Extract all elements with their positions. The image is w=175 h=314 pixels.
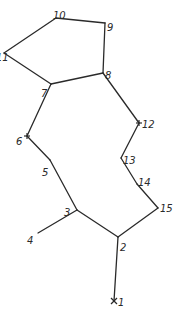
atom-label-8: 8 (105, 70, 111, 81)
bond-3-5 (50, 160, 77, 210)
atom-label-4: 4 (27, 235, 33, 246)
atom-label-2: 2 (120, 242, 126, 253)
bond-1-2 (114, 237, 118, 301)
atom-markers (24, 120, 142, 304)
atom-label-10: 10 (53, 10, 66, 21)
bond-9-8 (103, 23, 105, 73)
bond-6-7 (27, 84, 51, 136)
bond-3-4 (38, 210, 77, 233)
atom-label-7: 7 (41, 88, 48, 99)
skeletal-structure-diagram: 123456789101112131415 (0, 0, 175, 314)
atom-label-11: 11 (0, 52, 9, 63)
atom-label-3: 3 (64, 207, 70, 218)
bond-12-13 (121, 123, 139, 158)
bond-5-6 (27, 136, 50, 160)
atom-label-13: 13 (123, 155, 136, 166)
bond-8-7 (51, 73, 103, 84)
atom-label-15: 15 (160, 203, 173, 214)
bond-2-3 (77, 210, 118, 237)
bond-15-2 (118, 208, 158, 237)
atom-label-14: 14 (138, 177, 151, 188)
atom-label-1: 1 (118, 297, 124, 308)
atom-label-5: 5 (42, 167, 48, 178)
atom-label-6: 6 (16, 136, 22, 147)
atom-label-9: 9 (107, 22, 113, 33)
bond-7-11 (4, 53, 51, 84)
atom-label-12: 12 (142, 119, 155, 130)
atom-labels: 123456789101112131415 (0, 10, 173, 308)
bond-11-10 (4, 18, 56, 53)
